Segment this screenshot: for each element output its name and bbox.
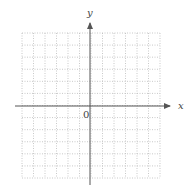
x-axis-label: x <box>178 100 184 111</box>
y-axis-label: y <box>86 7 93 18</box>
coordinate-plane: x y 0 <box>0 0 192 193</box>
origin-label: 0 <box>83 109 89 120</box>
